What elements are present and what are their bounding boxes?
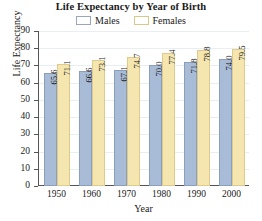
legend-entry-males: Males	[76, 15, 119, 26]
y-axis-tick-mark	[34, 100, 38, 101]
x-axis-tick-label: 1980	[152, 189, 171, 199]
bar-females-1980[interactable]: 77.4	[162, 53, 175, 186]
year-group: 65.671.1	[44, 31, 70, 186]
y-axis-label: Life Expectancy	[11, 0, 22, 104]
y-axis-tick-label: 10	[4, 163, 30, 174]
y-axis-tick-mark	[34, 169, 38, 170]
chart-title: Life Expectancy by Year of Birth	[0, 1, 262, 12]
bar-males-1990[interactable]: 71.8	[184, 62, 197, 186]
bar-males-2000[interactable]: 74.0	[219, 59, 232, 186]
y-axis-tick-mark	[34, 134, 38, 135]
year-group: 71.878.8	[184, 31, 210, 186]
bar-males-1960[interactable]: 66.6	[79, 71, 92, 186]
bar-value-label: 74.7	[133, 54, 142, 69]
bar-females-1970[interactable]: 74.7	[127, 57, 140, 186]
y-axis-tick-mark	[34, 65, 38, 66]
x-axis-tick-label: 2000	[222, 189, 241, 199]
y-axis-tick-mark	[34, 117, 38, 118]
x-axis-tick-labels: 195019601970198019902000	[39, 189, 249, 199]
bar-females-1990[interactable]: 78.8	[197, 50, 210, 186]
x-axis-label: Year	[38, 203, 249, 214]
x-axis-tick-label: 1970	[117, 189, 136, 199]
legend-swatch-males-icon	[76, 16, 91, 25]
legend-swatch-females-icon	[134, 16, 149, 25]
bar-value-label: 78.8	[203, 47, 212, 62]
year-group: 66.673.1	[79, 31, 105, 186]
y-axis-tick-mark	[34, 186, 38, 187]
x-axis-tick-label: 1990	[187, 189, 206, 199]
bar-females-2000[interactable]: 79.5	[232, 49, 245, 186]
bar-value-label: 77.4	[168, 49, 177, 64]
legend-label-females: Females	[153, 15, 186, 26]
y-axis-tick-mark	[34, 48, 38, 49]
chart-legend: Males Females	[0, 15, 262, 26]
x-axis-tick-label: 1960	[82, 189, 101, 199]
bar-males-1950[interactable]: 65.6	[44, 73, 57, 186]
y-axis-tick-mark	[34, 83, 38, 84]
bar-females-1960[interactable]: 73.1	[92, 60, 105, 186]
bar-males-1970[interactable]: 67.1	[114, 70, 127, 186]
y-axis-tick-label: 30	[4, 128, 30, 139]
chart-container: Life Expectancy by Year of Birth Males F…	[0, 0, 262, 221]
year-group: 70.077.4	[149, 31, 175, 186]
y-axis-tick-mark	[34, 31, 38, 32]
bars-area: 65.671.166.673.167.174.770.077.471.878.8…	[39, 31, 249, 186]
bar-value-label: 71.1	[63, 60, 72, 75]
bar-value-label: 79.5	[238, 46, 247, 61]
year-group: 74.079.5	[219, 31, 245, 186]
y-axis-tick-label: 40	[4, 111, 30, 122]
y-axis-tick-label: 20	[4, 146, 30, 157]
y-axis-tick-mark	[34, 152, 38, 153]
bar-males-1980[interactable]: 70.0	[149, 65, 162, 186]
year-group: 67.174.7	[114, 31, 140, 186]
legend-label-males: Males	[95, 15, 119, 26]
bar-females-1950[interactable]: 71.1	[57, 64, 70, 186]
x-axis-tick-label: 1950	[47, 189, 66, 199]
legend-entry-females: Females	[134, 15, 186, 26]
y-axis-tick-label: 0	[4, 180, 30, 191]
bar-value-label: 73.1	[98, 57, 107, 72]
